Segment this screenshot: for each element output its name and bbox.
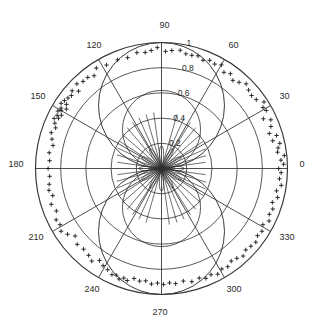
marker-plus (122, 276, 126, 280)
marker-plus (197, 276, 201, 280)
polar-plot-figure: 03060901201501802102402703003300.20.40.6… (0, 0, 322, 331)
radial-tick-label-1: 1 (186, 39, 191, 48)
angular-tick-label-0: 0 (300, 160, 305, 169)
marker-plus (276, 146, 280, 150)
radial-tick-label-0.4: 0.4 (173, 114, 185, 123)
marker-plus (231, 78, 235, 82)
marker-plus (219, 63, 223, 67)
marker-plus (54, 218, 58, 222)
marker-plus (269, 118, 273, 122)
marker-plus (190, 279, 194, 283)
marker-plus (62, 98, 66, 102)
marker-plus (267, 212, 271, 216)
marker-plus (86, 75, 90, 79)
marker-plus (229, 259, 233, 263)
marker-plus (64, 107, 68, 111)
marker-plus (228, 72, 232, 76)
marker-plus (277, 177, 281, 181)
marker-plus (262, 100, 266, 104)
marker-plus (275, 195, 279, 199)
marker-plus (47, 158, 51, 162)
marker-plus (149, 282, 153, 286)
marker-plus (267, 219, 271, 223)
marker-plus (216, 272, 220, 276)
marker-plus (271, 139, 275, 143)
angular-tick-label-30: 30 (280, 92, 290, 101)
marker-plus (53, 126, 57, 130)
marker-plus (105, 268, 109, 272)
marker-plus (163, 49, 167, 53)
marker-plus (274, 189, 278, 193)
marker-plus (47, 151, 51, 155)
marker-plus (173, 281, 177, 285)
marker-plus (97, 258, 101, 262)
marker-plus (241, 254, 245, 258)
marker-plus (50, 137, 54, 141)
marker-plus (254, 240, 258, 244)
radial-tick-label-0.8: 0.8 (182, 64, 194, 73)
marker-plus (275, 150, 279, 154)
angular-tick-label-210: 210 (28, 233, 43, 242)
marker-plus (46, 166, 50, 170)
marker-plus (135, 50, 139, 54)
marker-plus (144, 279, 148, 283)
marker-plus (249, 93, 253, 97)
marker-plus (104, 63, 108, 67)
marker-plus (81, 247, 85, 251)
marker-plus (260, 229, 264, 233)
marker-plus (269, 124, 273, 128)
marker-plus (254, 97, 258, 101)
marker-plus (279, 183, 283, 187)
marker-plus (190, 53, 194, 57)
marker-plus (222, 70, 226, 74)
marker-plus (244, 82, 248, 86)
marker-plus (235, 256, 239, 260)
marker-plus (59, 101, 63, 105)
angular-tick-label-180: 180 (9, 160, 24, 169)
marker-plus (81, 79, 85, 83)
marker-plus (49, 130, 53, 134)
polar-plot-canvas (0, 0, 322, 331)
marker-plus (132, 276, 136, 280)
angular-tick-label-90: 90 (160, 21, 170, 30)
marker-plus (213, 62, 217, 66)
marker-plus (167, 281, 171, 285)
marker-plus (279, 170, 283, 174)
marker-plus (76, 89, 80, 93)
marker-plus (47, 174, 51, 178)
marker-plus (92, 74, 96, 78)
marker-plus (155, 281, 159, 285)
marker-plus (226, 264, 230, 268)
marker-plus (267, 131, 271, 135)
marker-plus (209, 273, 213, 277)
marker-plus (196, 54, 200, 58)
marker-plus (53, 121, 57, 125)
angular-tick-label-120: 120 (87, 41, 102, 50)
marker-plus (184, 52, 188, 56)
marker-plus (51, 143, 55, 147)
marker-plus (65, 232, 69, 236)
marker-plus (178, 48, 182, 52)
marker-plus (59, 113, 63, 117)
marker-plus (125, 278, 129, 282)
marker-plus (237, 80, 241, 84)
marker-plus (281, 162, 285, 166)
marker-plus (70, 89, 74, 93)
marker-plus (261, 117, 265, 121)
marker-plus (276, 166, 280, 170)
angular-tick-label-150: 150 (30, 92, 45, 101)
marker-plus (75, 242, 79, 246)
marker-plus (59, 108, 63, 112)
marker-plus (54, 209, 58, 213)
marker-plus (64, 102, 68, 106)
radial-tick-label-0.2: 0.2 (169, 139, 181, 148)
marker-plus (201, 58, 205, 62)
marker-plus (149, 48, 153, 52)
marker-plus (255, 234, 259, 238)
marker-plus (73, 234, 77, 238)
marker-plus (47, 188, 51, 192)
marker-plus (246, 88, 250, 92)
marker-plus (110, 273, 114, 277)
marker-plus (207, 58, 211, 62)
marker-plus (274, 133, 278, 137)
